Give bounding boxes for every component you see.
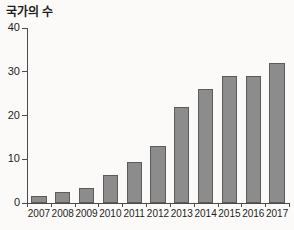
x-tick-label-2013: 2013 bbox=[170, 208, 194, 219]
x-tick-label-2007: 2007 bbox=[27, 208, 51, 219]
x-tick-label-2016: 2016 bbox=[241, 208, 265, 219]
x-tick-mark bbox=[194, 203, 195, 207]
x-tick-label-2011: 2011 bbox=[122, 208, 146, 219]
bar-2007 bbox=[31, 196, 46, 203]
x-tick-label-2010: 2010 bbox=[98, 208, 122, 219]
bar-2008 bbox=[55, 192, 70, 203]
x-tick-mark bbox=[98, 203, 99, 207]
bar-chart: 국가의 수 010203040 200720082009201020112012… bbox=[0, 0, 294, 230]
bar-2011 bbox=[127, 162, 142, 203]
y-tick-mark bbox=[22, 28, 27, 29]
x-tick-mark bbox=[218, 203, 219, 207]
x-tick-label-2009: 2009 bbox=[75, 208, 99, 219]
x-axis-line bbox=[27, 203, 289, 204]
y-tick-mark bbox=[22, 115, 27, 116]
y-tick-label: 0 bbox=[0, 196, 20, 208]
x-tick-mark bbox=[146, 203, 147, 207]
bar-2009 bbox=[79, 188, 94, 203]
y-tick-label: 20 bbox=[0, 109, 20, 121]
x-tick-mark bbox=[75, 203, 76, 207]
x-tick-mark bbox=[122, 203, 123, 207]
x-tick-mark bbox=[241, 203, 242, 207]
bar-2017 bbox=[269, 63, 284, 203]
x-tick-mark bbox=[51, 203, 52, 207]
bar-2013 bbox=[174, 107, 189, 203]
bar-2016 bbox=[246, 76, 261, 203]
x-tick-mark bbox=[289, 203, 290, 207]
bar-2014 bbox=[198, 89, 213, 203]
x-tick-mark bbox=[27, 203, 28, 207]
x-tick-mark bbox=[265, 203, 266, 207]
x-tick-label-2014: 2014 bbox=[194, 208, 218, 219]
bar-2010 bbox=[103, 175, 118, 203]
x-tick-label-2015: 2015 bbox=[218, 208, 242, 219]
y-tick-label: 10 bbox=[0, 152, 20, 164]
bar-2012 bbox=[150, 146, 165, 203]
x-tick-label-2008: 2008 bbox=[51, 208, 75, 219]
x-tick-label-2012: 2012 bbox=[146, 208, 170, 219]
chart-title: 국가의 수 bbox=[6, 2, 53, 19]
y-axis-line bbox=[27, 28, 28, 204]
bar-2015 bbox=[222, 76, 237, 203]
y-tick-mark bbox=[22, 71, 27, 72]
y-tick-label: 30 bbox=[0, 65, 20, 77]
y-tick-mark bbox=[22, 159, 27, 160]
x-tick-label-2017: 2017 bbox=[265, 208, 289, 219]
x-tick-mark bbox=[170, 203, 171, 207]
y-tick-label: 40 bbox=[0, 21, 20, 33]
